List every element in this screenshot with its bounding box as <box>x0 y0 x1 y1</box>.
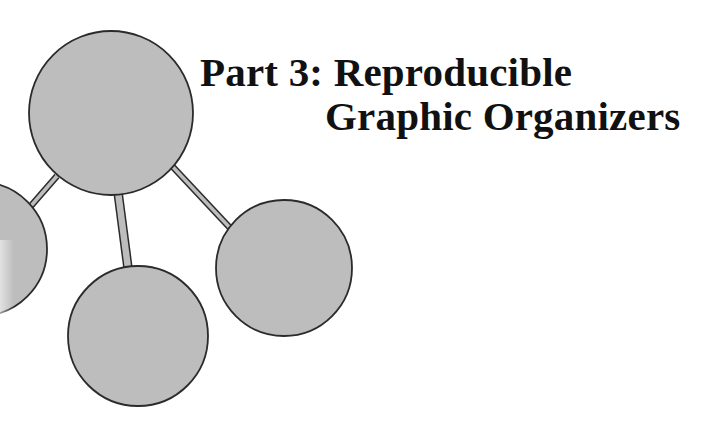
connector-bottom <box>118 192 128 268</box>
title-line-1: Part 3: Reproducible <box>200 49 572 95</box>
child-node-left <box>0 182 47 316</box>
central-node <box>29 31 193 195</box>
child-node-bottom <box>68 266 208 406</box>
page-title: Part 3: Reproducible Graphic Organizers <box>200 50 680 138</box>
connector-left <box>30 176 57 207</box>
connector-right <box>172 166 232 230</box>
title-line-2: Graphic Organizers <box>200 94 680 138</box>
child-node-right <box>216 200 352 336</box>
